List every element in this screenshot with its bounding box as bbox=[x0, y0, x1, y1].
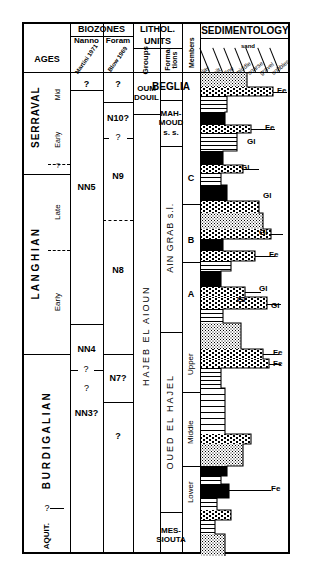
note-gl-1: Gl bbox=[247, 137, 255, 146]
nanno-rule-2 bbox=[70, 324, 103, 325]
age-dash-langhian bbox=[48, 250, 70, 251]
foram-rule-2 bbox=[103, 354, 133, 355]
age-langhian: L A N G H I A N bbox=[31, 229, 42, 300]
header-lithol: LITHOL. bbox=[133, 24, 182, 36]
note-fe-5: Fe bbox=[273, 359, 282, 368]
header-members-wrap: Members bbox=[182, 34, 200, 72]
note-fe-4: Fe bbox=[273, 348, 282, 357]
nanno-dash-left bbox=[70, 370, 78, 371]
note-fe-1: Fe bbox=[277, 86, 286, 95]
member-middle-wrap: Middle bbox=[182, 398, 200, 466]
member-b: B bbox=[182, 234, 200, 248]
formation-ain-grab: AIN GRAB s.l. bbox=[166, 203, 175, 273]
foram-query-low: ? bbox=[103, 430, 133, 444]
foram-query-mid: ? bbox=[109, 132, 127, 144]
foram-dash-left bbox=[103, 138, 109, 139]
nanno-rule-1 bbox=[70, 90, 103, 91]
age-serraval-query: ? bbox=[46, 160, 70, 172]
age-serraval-wrap: SERRAVAL bbox=[24, 72, 48, 162]
foram-n8: N8 bbox=[103, 264, 133, 278]
stratigraphic-chart: AGES BIOZONES Nanno Foram Martini 1971 B… bbox=[22, 22, 290, 554]
formation-mahmoud: MAH- MOUD s. s. bbox=[159, 109, 183, 137]
formation-mes-siouta-wrap: MES- SIOUTA bbox=[160, 514, 182, 556]
header-members: Members bbox=[187, 38, 194, 69]
formation-mahmoud-wrap: MAH- MOUD s. s. bbox=[160, 102, 182, 144]
member-upper: Upper bbox=[187, 353, 195, 375]
header-foram-ref: Blow 1969 bbox=[107, 46, 129, 74]
age-serraval-mid-wrap: Mid bbox=[46, 72, 70, 118]
age-rule-langhian bbox=[24, 174, 70, 175]
member-rule-ml bbox=[182, 466, 200, 467]
age-dash-aquit bbox=[50, 508, 64, 509]
age-serraval-early: Early bbox=[54, 132, 61, 148]
formation-rule-4 bbox=[160, 512, 182, 513]
note-fe-3: Fe bbox=[269, 250, 278, 259]
header-foram-ref-wrap: Blow 1969 bbox=[103, 47, 133, 72]
nanno-query-mid: ? bbox=[70, 382, 103, 396]
member-rule-um bbox=[182, 392, 200, 393]
nanno-query-boundary: ? bbox=[78, 363, 94, 377]
age-langhian-late-wrap: Late bbox=[46, 174, 70, 250]
note-gl-7: Gl bbox=[271, 301, 279, 310]
col-divider-nanno-foram bbox=[103, 24, 104, 552]
nanno-nn5: NN5 bbox=[70, 180, 103, 196]
group-oum-douil-wrap: OUM DOUIL bbox=[133, 74, 160, 114]
note-gl-4: Gl bbox=[259, 228, 267, 237]
header-groups: Groups bbox=[142, 46, 150, 74]
age-rule-burdigalian bbox=[24, 354, 70, 355]
foram-rule-3 bbox=[103, 402, 133, 403]
age-aquit-query: ? bbox=[24, 502, 70, 516]
header-nanno-ref: Martini 1971 bbox=[74, 43, 99, 75]
age-serraval-mid: Mid bbox=[54, 89, 61, 100]
header-foram: Foram bbox=[103, 36, 133, 47]
age-burdigalian: B U R D I G A L I A N bbox=[42, 393, 53, 489]
foram-n7: N7? bbox=[103, 372, 133, 386]
nanno-nn3: NN3? bbox=[70, 406, 103, 422]
member-middle: Middle bbox=[187, 420, 195, 444]
sedimentology-log: Fe Fe Gl Gl Gl Gl Fe Gl Gl Gl Fe Fe Fe bbox=[201, 73, 290, 556]
note-gl-2: Gl bbox=[241, 163, 249, 172]
age-burdigalian-wrap: B U R D I G A L I A N bbox=[24, 358, 70, 524]
header-ages: AGES bbox=[24, 48, 70, 72]
header-sedimentology: SEDIMENTOLOGY bbox=[200, 24, 290, 38]
formation-beglia: BEGLIA bbox=[160, 74, 182, 100]
member-rule-cb bbox=[182, 204, 200, 205]
formation-oued-el-hajel: OUED EL HAJEL bbox=[166, 374, 175, 470]
note-gl-3: Gl bbox=[263, 191, 271, 200]
group-hajeb-el-aioun: HAJEB EL AIOUN bbox=[142, 286, 151, 387]
member-lower: Lower bbox=[187, 481, 195, 503]
col-divider-ages-biozones bbox=[70, 24, 71, 552]
note-gl-6: Gl bbox=[237, 295, 245, 304]
note-fe-2: Fe bbox=[265, 123, 274, 132]
member-c: C bbox=[182, 172, 200, 186]
group-hajeb-wrap: HAJEB EL AIOUN bbox=[133, 116, 160, 556]
formation-ain-grab-wrap: AIN GRAB s.l. bbox=[160, 148, 182, 328]
foram-n10: N10? bbox=[103, 112, 133, 126]
age-langhian-wrap: L A N G H I A N bbox=[24, 174, 48, 354]
leader-gl-3 bbox=[271, 234, 283, 235]
formation-oued-wrap: OUED EL HAJEL bbox=[160, 334, 182, 510]
member-rule-ba bbox=[182, 262, 200, 263]
formation-rule-2 bbox=[160, 146, 182, 147]
age-serraval: SERRAVAL bbox=[31, 86, 42, 148]
header-sand-group: sand bbox=[236, 42, 260, 50]
age-langhian-late: Late bbox=[54, 204, 62, 220]
age-aquit: AQUIT. bbox=[43, 523, 51, 549]
header-formations: Forma tions bbox=[164, 49, 178, 71]
foram-query-top: ? bbox=[103, 78, 133, 92]
foram-rule-1 bbox=[103, 102, 133, 103]
foram-n9: N9 bbox=[103, 170, 133, 184]
header-nanno-ref-wrap: Martini 1971 bbox=[70, 47, 103, 72]
group-rule-1 bbox=[133, 114, 160, 115]
member-a: A bbox=[182, 288, 200, 302]
age-dash-serraval bbox=[48, 164, 70, 165]
foram-dash-n9n8 bbox=[103, 220, 133, 221]
age-langhian-early-wrap: Early bbox=[46, 250, 70, 354]
sedimentology-underline bbox=[200, 38, 290, 39]
formation-mes-siouta: MES- SIOUTA bbox=[156, 526, 186, 544]
formation-rule-3 bbox=[160, 332, 182, 333]
nanno-nn4: NN4 bbox=[70, 342, 103, 358]
header-groups-wrap: Groups bbox=[133, 48, 160, 72]
header-formations-wrap: Forma tions bbox=[160, 48, 182, 72]
note-gl-5: Gl bbox=[259, 284, 267, 293]
